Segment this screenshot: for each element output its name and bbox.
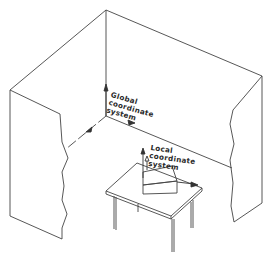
table <box>106 163 202 252</box>
room-walls <box>10 10 262 239</box>
room-illustration <box>0 0 271 259</box>
diagram-canvas: Global coordinate system Local coordinat… <box>0 0 271 259</box>
